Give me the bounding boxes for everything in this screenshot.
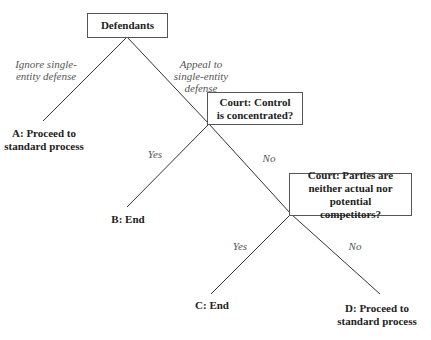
node-court-control-concentrated: Court: Control is concentrated?	[207, 92, 303, 125]
edge-court2-to-d	[291, 214, 380, 294]
leaf-a: A: Proceed to standard process	[4, 127, 84, 153]
node-court2-label: Court: Parties are neither actual nor po…	[299, 169, 403, 221]
node-court-not-competitors: Court: Parties are neither actual nor po…	[289, 173, 412, 216]
decision-tree-diagram: Defendants Court: Control is concentrate…	[0, 0, 431, 340]
edge-label-appeal: Appeal to single-entity defense	[164, 58, 238, 94]
edge-court1-to-b	[127, 124, 209, 207]
edge-label-court1-no: No	[259, 152, 279, 164]
leaf-b: B: End	[108, 213, 148, 226]
edge-court1-to-court2	[209, 124, 291, 214]
edge-court2-to-c	[211, 214, 291, 294]
edge-label-ignore: Ignore single-entity defense	[14, 58, 78, 82]
leaf-d: D: Proceed to standard process	[337, 302, 417, 328]
node-defendants: Defendants	[87, 13, 168, 38]
node-court1-label: Court: Control is concentrated?	[215, 96, 295, 122]
node-defendants-label: Defendants	[101, 19, 154, 32]
edge-label-court2-yes: Yes	[228, 240, 252, 252]
leaf-c: C: End	[192, 299, 232, 312]
edge-label-court1-yes: Yes	[143, 148, 167, 160]
edge-label-court2-no: No	[345, 240, 365, 252]
